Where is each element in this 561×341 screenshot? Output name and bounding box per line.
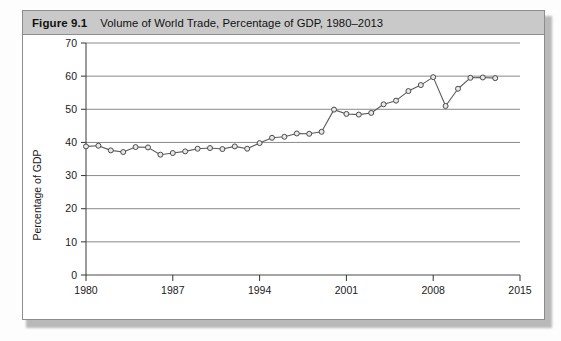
y-axis-title: Percentage of GDP xyxy=(31,149,43,240)
series-line xyxy=(86,77,495,155)
data-point-2002 xyxy=(356,112,361,117)
figure-header: Figure 9.1 Volume of World Trade, Percen… xyxy=(23,11,544,35)
y-tick-label-10: 10 xyxy=(65,236,77,248)
data-point-2000 xyxy=(332,107,337,112)
data-point-2010 xyxy=(456,86,461,91)
x-tick-label-2008: 2008 xyxy=(422,284,446,296)
data-point-1989 xyxy=(195,146,200,151)
data-point-1997 xyxy=(294,131,299,136)
x-tick-label-2015: 2015 xyxy=(508,284,532,296)
x-axis: 198019871994200120082015 xyxy=(74,275,532,296)
x-tick-label-1994: 1994 xyxy=(248,284,272,296)
data-point-2009 xyxy=(443,103,448,108)
data-point-1987 xyxy=(170,151,175,156)
data-point-1991 xyxy=(220,147,225,152)
data-point-1990 xyxy=(208,146,213,151)
data-point-1981 xyxy=(96,143,101,148)
y-tick-label-50: 50 xyxy=(65,103,77,115)
data-point-1994 xyxy=(257,141,262,146)
line-chart: 010203040506070 198019871994200120082015… xyxy=(23,35,544,319)
y-tick-label-30: 30 xyxy=(65,169,77,181)
data-point-1985 xyxy=(146,145,151,150)
data-point-2007 xyxy=(418,83,423,88)
figure-container: Figure 9.1 Volume of World Trade, Percen… xyxy=(22,10,545,320)
y-axis: 010203040506070 xyxy=(65,37,86,281)
y-tick-label-60: 60 xyxy=(65,70,77,82)
data-point-1999 xyxy=(319,129,324,134)
data-point-2001 xyxy=(344,111,349,116)
gridlines-group xyxy=(86,43,520,242)
data-point-1986 xyxy=(158,152,163,157)
data-point-1992 xyxy=(232,144,237,149)
y-tick-label-20: 20 xyxy=(65,202,77,214)
data-point-1988 xyxy=(183,149,188,154)
data-point-2003 xyxy=(369,110,374,115)
data-point-1996 xyxy=(282,134,287,139)
y-tick-label-70: 70 xyxy=(65,37,77,49)
data-point-1998 xyxy=(307,131,312,136)
data-point-1984 xyxy=(133,145,138,150)
data-point-2005 xyxy=(394,98,399,103)
figure-root: Figure 9.1 Volume of World Trade, Percen… xyxy=(0,0,561,341)
x-tick-label-1980: 1980 xyxy=(74,284,98,296)
data-point-1995 xyxy=(270,135,275,140)
data-point-2006 xyxy=(406,89,411,94)
data-series-world-trade xyxy=(84,75,498,158)
chart-canvas: 010203040506070 198019871994200120082015… xyxy=(23,35,544,319)
y-tick-label-0: 0 xyxy=(71,269,77,281)
data-point-2011 xyxy=(468,75,473,80)
x-tick-label-1987: 1987 xyxy=(161,284,185,296)
data-point-1983 xyxy=(121,150,126,155)
figure-title: Volume of World Trade, Percentage of GDP… xyxy=(100,17,383,29)
y-tick-label-40: 40 xyxy=(65,136,77,148)
data-point-2004 xyxy=(381,102,386,107)
data-point-1982 xyxy=(108,148,113,153)
figure-number-label: Figure 9.1 xyxy=(32,17,87,29)
data-point-1980 xyxy=(84,144,89,149)
data-point-2008 xyxy=(431,75,436,80)
data-point-2012 xyxy=(480,75,485,80)
x-tick-label-2001: 2001 xyxy=(335,284,359,296)
data-point-2013 xyxy=(493,76,498,81)
data-point-1993 xyxy=(245,146,250,151)
